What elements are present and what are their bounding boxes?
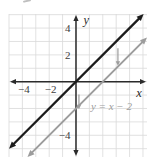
- coordinate-plane: −4−242−4xyy = x − 2: [0, 0, 155, 163]
- y-tick-label: 4: [65, 22, 71, 34]
- line-y-equals-x-minus-2-stroke: [31, 41, 143, 153]
- x-axis-label: x: [135, 86, 142, 100]
- x-tick-label: −4: [18, 83, 30, 95]
- y-tick-label: 2: [65, 49, 71, 61]
- equation-label: y = x − 2: [90, 100, 133, 112]
- y-axis-arrowhead: [73, 15, 78, 21]
- y-axis-label: y: [81, 13, 89, 27]
- y-axis-arrowhead: [73, 150, 78, 156]
- graph-figure: −4−242−4xyy = x − 2: [0, 0, 155, 163]
- x-tick-label: −2: [45, 83, 57, 95]
- y-tick-label: −4: [59, 129, 71, 141]
- x-axis-arrowhead: [10, 79, 16, 84]
